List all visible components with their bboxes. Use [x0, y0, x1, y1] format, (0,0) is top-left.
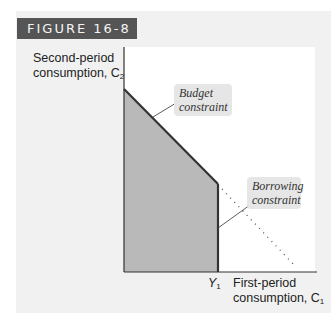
feasible-region [124, 89, 218, 272]
y-axis-label: Second-period consumption, C2 [33, 51, 124, 84]
borrowing-leader-line [218, 205, 250, 228]
budget-constraint-callout: Budget constraint [174, 84, 232, 116]
callout-text: Budget [179, 86, 227, 100]
callout-text: constraint [179, 100, 227, 114]
y-label-line1: Second-period [33, 51, 124, 66]
callout-text: constraint [252, 193, 296, 207]
x-tick-y1: Y1 [208, 276, 221, 291]
y-label-line2: consumption, C2 [33, 66, 124, 84]
budget-leader-line [153, 103, 176, 117]
x-label-line1: First-period [233, 276, 324, 291]
x-axis-label: First-period consumption, C1 [233, 276, 324, 309]
borrowing-constraint-callout: Borrowing constraint [247, 177, 301, 209]
x-label-line2: consumption, C1 [233, 291, 324, 309]
callout-text: Borrowing [252, 179, 296, 193]
